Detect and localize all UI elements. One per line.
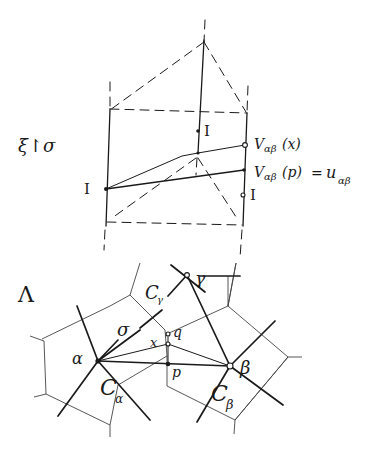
label-sigma: σ [117,319,130,340]
voronoi-cells [30,263,302,437]
svg-text:αβ: αβ [264,171,277,182]
roof-left-dashed [110,42,204,110]
node-beta [227,363,233,369]
identity-label-center: I [204,122,210,140]
svg-text:γ: γ [157,294,163,305]
label-alpha: α [72,349,83,368]
svg-text:αβ: αβ [338,175,351,186]
top-dashed-edge [110,109,247,113]
label-c-beta: C β [211,381,234,412]
inner-dashed-right [198,158,238,220]
line-gamma-to-beta [187,275,230,366]
label-v-alpha-beta-x: V αβ (x) [254,136,301,154]
kink-point [196,151,199,154]
upper-fiber-block: I I I ξ↾σ V αβ (x) V αβ (p) = u αβ [18,20,351,258]
roof-right-dashed [204,42,246,112]
node-alpha [95,358,100,363]
map-label-xi-sigma: ξ↾σ [18,135,56,156]
lattice-label-lambda: Λ [17,282,35,307]
section-curve-vx [106,145,245,189]
left-identity-point [104,187,108,191]
inner-dashed-center [196,158,197,175]
label-x: x [150,335,158,350]
vp-point [242,168,246,172]
inner-dashed-left [112,158,196,218]
label-p: p [172,364,181,380]
bottom-dashed-edge [107,222,242,225]
svg-text:αβ: αβ [264,143,277,154]
node-q [166,332,170,336]
svg-text:(x): (x) [282,136,301,152]
node-gamma [185,273,190,278]
center-identity-point [196,129,200,133]
identity-label-left: I [84,180,90,198]
left-dashed-down [104,230,105,250]
right-dashed-down [240,230,242,258]
apex-dashed-top [204,20,205,42]
right-top-stub [247,86,248,112]
cell-c-beta [167,357,302,420]
vx-open-point [243,143,248,148]
svg-text:u: u [326,163,336,182]
node-p [166,362,171,367]
lower-lattice-block: Λ [17,263,302,437]
label-q: q [173,324,182,340]
label-gamma: γ [195,268,206,288]
svg-text:=: = [311,165,323,181]
identity-label-right: I [250,186,256,204]
node-x [166,342,170,346]
svg-text:β: β [225,397,234,412]
label-c-gamma: C γ [145,282,163,305]
right-identity-point [241,193,245,197]
segment-alpha-beta [98,361,230,366]
diagram-canvas: I I I ξ↾σ V αβ (x) V αβ (p) = u αβ Λ [0,0,383,453]
label-v-alpha-beta-p-equals-u: V αβ (p) = u αβ [254,163,351,186]
label-c-alpha: C α [100,375,123,406]
svg-text:α: α [115,392,123,406]
label-beta: β [239,357,250,378]
svg-text:(p): (p) [282,164,302,180]
left-vertical [106,109,110,226]
line-cgamma-to-gamma [168,275,187,296]
